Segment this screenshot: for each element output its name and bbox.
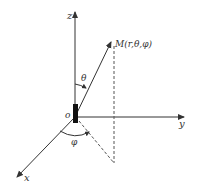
- phi-label: φ: [71, 137, 78, 147]
- origin-label: o: [65, 110, 71, 120]
- theta-label: θ: [81, 73, 87, 83]
- horizontal-projection-line: [79, 121, 114, 163]
- theta-arc: [75, 84, 86, 88]
- z-axis-label: z: [66, 10, 73, 21]
- phi-arc: [60, 131, 89, 136]
- x-axis: [17, 117, 75, 177]
- spherical-coordinates-diagram: z y x o M(r,θ,φ) θ φ: [0, 0, 198, 192]
- point-m-label: M(r,θ,φ): [114, 39, 152, 49]
- y-axis-label: y: [178, 118, 185, 129]
- dipole-element: [73, 104, 78, 123]
- x-axis-label: x: [24, 172, 30, 183]
